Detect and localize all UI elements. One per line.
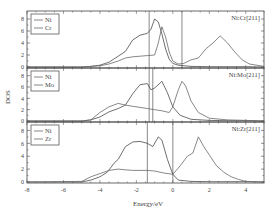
series-zr: [27, 137, 264, 182]
y-tick-label: 4: [21, 96, 24, 102]
dos-chart-svg: 02468NiCrNi:Cr[211]02468NiMoNi:Mo[211]02…: [0, 0, 279, 215]
y-tick-label: 2: [21, 52, 24, 58]
y-tick-label: 2: [21, 107, 24, 113]
y-tick-label: 6: [21, 28, 24, 34]
y-tick-label: 0: [21, 64, 24, 70]
x-tick-label: -6: [61, 187, 66, 193]
x-tick-label: 2: [208, 187, 211, 193]
x-axis-label: Energy/eV: [133, 200, 163, 208]
panel-2: 02468NiMoNi:Mo[211]: [21, 68, 264, 124]
panel-frame: [27, 11, 264, 68]
series-ni: [27, 81, 264, 121]
y-tick-label: 6: [21, 84, 24, 90]
series-mo: [27, 81, 264, 121]
series-cr: [27, 27, 264, 67]
y-tick-label: 4: [21, 40, 24, 46]
y-tick-label: 8: [21, 73, 24, 79]
y-tick-label: 8: [21, 16, 24, 22]
y-tick-label: 2: [21, 166, 24, 172]
y-tick-label: 4: [21, 153, 24, 159]
y-tick-label: 0: [21, 179, 24, 185]
x-tick-label: 0: [171, 187, 174, 193]
x-tick-labels: -8-6-4-2024: [25, 187, 248, 193]
panels-group: 02468NiCrNi:Cr[211]02468NiMoNi:Mo[211]02…: [21, 11, 264, 185]
panel-title: Ni:Zr[211]: [232, 125, 260, 133]
panel-title: Ni:Mo[211]: [229, 71, 260, 79]
panel-3: 02468NiZrNi:Zr[211]: [21, 122, 264, 185]
legend-label: Ni: [45, 73, 52, 80]
x-tick-label: -8: [25, 187, 30, 193]
legend-label: Cr: [45, 24, 52, 31]
y-axis-label: DOS: [4, 90, 12, 104]
dos-figure: 02468NiCrNi:Cr[211]02468NiMoNi:Mo[211]02…: [0, 0, 279, 215]
panel-frame: [27, 122, 264, 183]
legend-label: Ni: [45, 127, 52, 134]
y-tick-label: 0: [21, 118, 24, 124]
x-tick-label: -4: [97, 187, 102, 193]
y-tick-label: 8: [21, 128, 24, 134]
y-tick-label: 6: [21, 141, 24, 147]
series-ni: [27, 19, 264, 67]
panel-title: Ni:Cr[211]: [231, 14, 260, 22]
legend-label: Zr: [45, 135, 52, 142]
legend-label: Ni: [45, 16, 52, 23]
legend-label: Mo: [45, 81, 54, 88]
x-tick-label: 4: [244, 187, 247, 193]
x-tick-label: -2: [134, 187, 139, 193]
panel-1: 02468NiCrNi:Cr[211]: [21, 11, 264, 70]
